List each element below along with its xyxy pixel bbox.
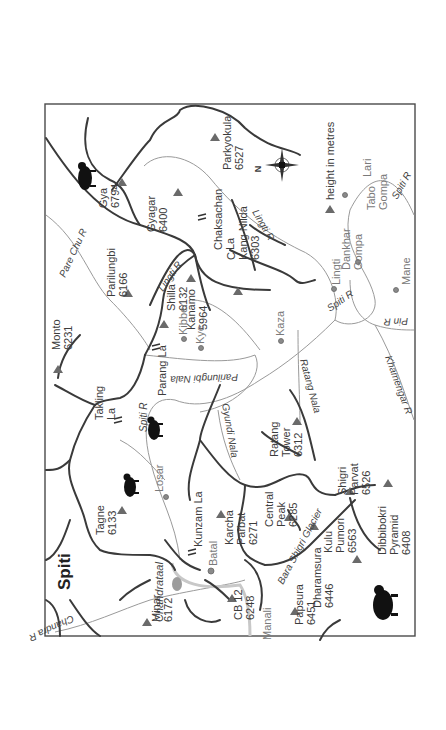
svg-text:Chaksachan: Chaksachan <box>212 189 224 250</box>
svg-text:6563: 6563 <box>346 529 358 553</box>
svg-text:Parkyokula: Parkyokula <box>221 115 233 170</box>
svg-text:Kunzam La: Kunzam La <box>192 490 204 547</box>
svg-text:6408: 6408 <box>400 531 412 555</box>
svg-text:Gompa: Gompa <box>352 233 364 270</box>
svg-text:La: La <box>105 407 117 420</box>
svg-text:Tagne: Tagne <box>94 505 106 535</box>
svg-text:6133: 6133 <box>106 511 118 535</box>
svg-text:6303: 6303 <box>249 236 261 260</box>
svg-text:Spiti R: Spiti R <box>138 403 149 432</box>
svg-text:Batal: Batal <box>207 541 219 566</box>
svg-text:6231: 6231 <box>62 326 74 350</box>
svg-text:Gyagar: Gyagar <box>145 196 157 232</box>
svg-text:6248: 6248 <box>244 596 256 620</box>
svg-text:Kulu: Kulu <box>322 531 334 553</box>
svg-text:Peak: Peak <box>275 501 287 527</box>
svg-text:6527: 6527 <box>233 146 245 170</box>
svg-text:Kibber: Kibber <box>177 303 189 335</box>
svg-text:Losar: Losar <box>153 464 165 492</box>
svg-text:Pin R: Pin R <box>383 316 408 328</box>
svg-text:Papsura: Papsura <box>293 583 305 625</box>
svg-text:Lari: Lari <box>361 159 373 177</box>
svg-text:6526: 6526 <box>360 471 372 495</box>
svg-text:Monto: Monto <box>50 319 62 350</box>
svg-text:6271: 6271 <box>247 521 259 545</box>
svg-text:CB 12: CB 12 <box>232 589 244 620</box>
svg-text:Gya: Gya <box>97 187 109 208</box>
svg-text:Parvat: Parvat <box>348 463 360 495</box>
svg-text:Shigri: Shigri <box>336 467 348 495</box>
svg-text:Kang Nilda: Kang Nilda <box>237 205 249 260</box>
svg-text:Ratang: Ratang <box>268 422 280 457</box>
svg-text:Takling: Takling <box>93 386 105 420</box>
svg-text:6312: 6312 <box>292 433 304 457</box>
svg-text:Pyramid: Pyramid <box>388 515 400 555</box>
svg-text:6794: 6794 <box>109 184 121 208</box>
svg-text:Tower: Tower <box>280 427 292 457</box>
svg-text:Central: Central <box>263 492 275 527</box>
spiti-map: N Spiti Gya6794 Gyagar6400 Parkyokula652… <box>0 0 446 730</box>
svg-text:Pumori: Pumori <box>334 518 346 553</box>
chandrataal-lake <box>172 577 182 591</box>
legend-label: height in metres <box>324 121 336 200</box>
svg-text:Dibbibokri: Dibbibokri <box>376 506 388 555</box>
svg-text:Gompa: Gompa <box>377 173 389 210</box>
svg-text:6166: 6166 <box>117 273 129 297</box>
svg-text:Parilungbi: Parilungbi <box>105 248 117 297</box>
svg-text:C: C <box>225 252 237 260</box>
svg-text:Tabo: Tabo <box>365 186 377 210</box>
map-frame <box>45 104 415 636</box>
svg-text:Parbat: Parbat <box>235 513 247 545</box>
svg-text:La: La <box>224 237 236 250</box>
svg-text:Mane: Mane <box>400 257 412 285</box>
svg-text:6446: 6446 <box>323 584 335 608</box>
svg-text:Manali: Manali <box>261 608 273 640</box>
svg-text:Parang La: Parang La <box>156 344 168 396</box>
svg-text:Kye: Kye <box>194 325 206 344</box>
svg-text:Dharamsura: Dharamsura <box>311 547 323 608</box>
lake-label: Chandrataal <box>153 562 165 622</box>
svg-text:6451: 6451 <box>305 601 317 625</box>
svg-text:Lingti: Lingti <box>330 259 342 285</box>
svg-text:6400: 6400 <box>157 208 169 232</box>
compass-north-label: N <box>253 166 263 173</box>
svg-text:6285: 6285 <box>287 503 299 527</box>
map-title: Spiti <box>55 553 74 590</box>
svg-text:Karcha: Karcha <box>223 509 235 545</box>
svg-text:Kaza: Kaza <box>274 310 286 336</box>
